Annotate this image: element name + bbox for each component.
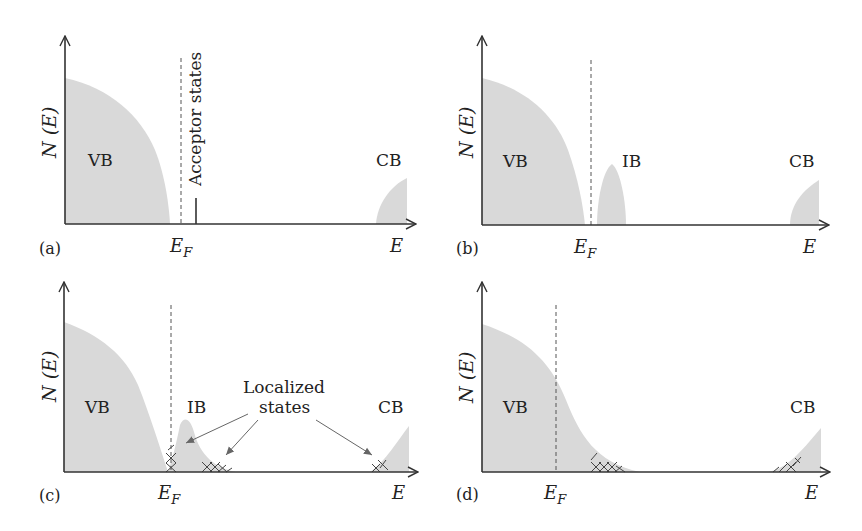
vb-label: VB [84,397,110,417]
localized-states-label-line1: Localized [243,377,325,397]
ib-label: IB [622,151,641,171]
vb-label: VB [87,150,113,170]
conduction-band-fill [376,178,407,224]
y-axis-label: N (E) [38,107,60,159]
panel-label: (c) [39,486,60,505]
panel-label: (d) [456,485,479,504]
panel-d: N (E) VB CB (d) EF E [455,282,830,507]
valence-band-fill [64,322,168,472]
y-axis-label: N (E) [455,352,477,404]
x-axis-label: E [802,236,816,257]
localized-states-label-line2: states [259,397,310,417]
acceptor-states-label: Acceptor states [185,52,205,187]
density-of-states-figure: N (E) VB CB Acceptor states (a) EF E N (… [0,0,862,531]
vb-label: VB [502,151,528,171]
x-axis-label: E [391,482,405,503]
cb-label: CB [378,397,404,417]
conduction-band-fill [370,426,409,472]
panel-c: N (E) VB IB CB Localized states (c) EF E [38,282,418,507]
cb-label: CB [790,397,816,417]
valence-band-fill [65,78,170,224]
panel-b: N (E) VB IB CB (b) EF E [455,36,829,261]
conduction-band-fill [768,428,821,472]
localized-states-pointer [226,420,258,455]
valence-band-fill [482,78,585,225]
fermi-level-label: EF [169,235,193,260]
panel-a: N (E) VB CB Acceptor states (a) EF E [38,36,416,260]
fermi-level-label: EF [543,482,567,507]
x-axis-label: E [804,482,818,503]
cb-label: CB [376,150,402,170]
fermi-level-label: EF [157,482,181,507]
localized-states-pointer [316,420,372,455]
y-axis-label: N (E) [455,107,477,159]
conduction-band-fill [790,180,819,225]
ib-label: IB [187,397,206,417]
cb-label: CB [789,151,815,171]
panel-label: (b) [456,239,479,258]
vb-label: VB [502,397,528,417]
impurity-band-fill [597,164,626,225]
y-axis-label: N (E) [38,351,60,403]
impurity-band-fill [168,420,236,472]
fermi-level-label: EF [573,236,597,261]
x-axis-label: E [389,235,403,256]
localized-states-pointer [186,414,248,443]
panel-label: (a) [39,239,61,258]
